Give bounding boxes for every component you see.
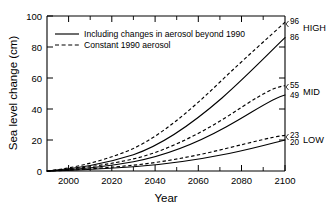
y-tick-label-40: 40 bbox=[31, 104, 42, 115]
sea-level-chart-figure: 0 20 40 60 80 100 bbox=[0, 0, 332, 217]
y-tick-label-20: 20 bbox=[31, 135, 42, 146]
curve-high-solid bbox=[47, 38, 285, 171]
x-tick-label-2060: 2060 bbox=[188, 175, 209, 186]
y-tick-label-60: 60 bbox=[31, 73, 42, 84]
x-tick-labels: 2000 2020 2040 2060 2080 2100 bbox=[58, 175, 296, 186]
scenario-label-high: HIGH bbox=[303, 23, 326, 33]
legend: Including changes in aerosol beyond 1990… bbox=[55, 29, 245, 50]
leader-low bbox=[286, 134, 289, 140]
scenario-annotations: 96 86 HIGH 55 49 MID 23 20 LOW bbox=[290, 17, 326, 147]
y-tick-label-100: 100 bbox=[26, 11, 42, 22]
legend-label-solid: Including changes in aerosol beyond 1990 bbox=[84, 29, 245, 39]
y-tick-labels: 0 20 40 60 80 100 bbox=[26, 11, 42, 177]
x-axis-title: Year bbox=[154, 192, 177, 204]
y-tick-label-80: 80 bbox=[31, 42, 42, 53]
end-value-high-upper: 96 bbox=[290, 17, 300, 26]
end-value-mid-lower: 49 bbox=[290, 91, 300, 100]
legend-label-dashed: Constant 1990 aerosol bbox=[84, 40, 171, 50]
chart-canvas: 0 20 40 60 80 100 bbox=[0, 0, 332, 217]
y-tick-marks-right bbox=[279, 47, 285, 140]
end-value-mid-upper: 55 bbox=[290, 81, 300, 90]
x-tick-marks-top bbox=[69, 16, 264, 22]
x-tick-label-2100: 2100 bbox=[274, 175, 295, 186]
y-tick-marks bbox=[47, 16, 53, 171]
y-tick-label-0: 0 bbox=[37, 166, 42, 177]
y-axis-title: Sea level change (cm) bbox=[7, 36, 19, 151]
end-value-high-lower: 86 bbox=[290, 33, 300, 42]
end-value-low-lower: 20 bbox=[290, 138, 300, 147]
curve-mid-solid bbox=[47, 95, 285, 171]
scenario-label-low: LOW bbox=[303, 135, 324, 145]
scenario-label-mid: MID bbox=[303, 87, 320, 97]
x-tick-label-2080: 2080 bbox=[231, 175, 252, 186]
x-tick-label-2040: 2040 bbox=[145, 175, 166, 186]
leader-high bbox=[286, 21, 289, 27]
x-tick-label-2020: 2020 bbox=[101, 175, 122, 186]
x-tick-label-2000: 2000 bbox=[58, 175, 79, 186]
leader-mid bbox=[286, 84, 289, 90]
end-value-leaders bbox=[286, 21, 289, 140]
